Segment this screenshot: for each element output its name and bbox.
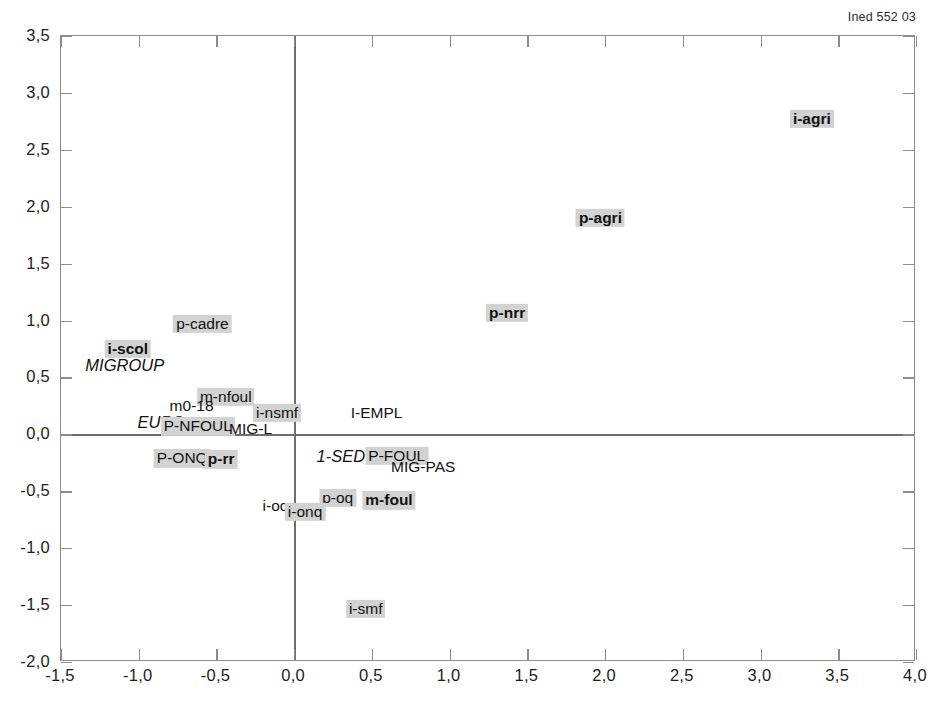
x-axis-tick-label: 2,0 [592, 666, 616, 685]
y-tick-right [903, 605, 914, 606]
x-tick-top [450, 36, 451, 47]
x-axis-tick-label: -1,0 [123, 666, 153, 685]
x-tick-top [61, 36, 62, 47]
x-tick-bottom [372, 649, 373, 660]
x-tick-bottom [605, 649, 606, 660]
y-tick-left [61, 548, 72, 549]
plot-frame: i-agrip-agrip-nrrp-cadrei-scolMIGROUPm-n… [60, 35, 915, 661]
y-axis-tick-label: 1,0 [26, 310, 50, 329]
y-tick-right [903, 150, 914, 151]
x-axis-tick-label: 0,5 [359, 666, 383, 685]
x-tick-top [216, 36, 217, 47]
y-axis-tick-label: 0,0 [26, 424, 50, 443]
y-axis-tick-label: -1,5 [20, 595, 50, 614]
y-tick-left [61, 662, 72, 663]
y-tick-right [903, 264, 914, 265]
y-tick-left [61, 491, 72, 492]
x-tick-top [605, 36, 606, 47]
data-point-label: p-agri [576, 209, 625, 227]
data-point-label: p-rr [205, 450, 238, 468]
x-tick-bottom [294, 649, 295, 660]
y-tick-left [61, 321, 72, 322]
y-tick-left [61, 36, 72, 37]
x-tick-bottom [450, 649, 451, 660]
x-axis-tick-label: -0,5 [201, 666, 231, 685]
y-tick-left [61, 207, 72, 208]
x-axis-tick-label: 3,0 [748, 666, 772, 685]
data-point-label: i-onq [285, 503, 325, 521]
y-tick-right [903, 207, 914, 208]
x-tick-top [139, 36, 140, 47]
y-axis-tick-label: 0,5 [26, 367, 50, 386]
data-point-label: i-smf [346, 599, 386, 617]
x-tick-top [838, 36, 839, 47]
x-tick-bottom [761, 649, 762, 660]
x-tick-top [372, 36, 373, 47]
x-axis-tick-label: 0,0 [281, 666, 305, 685]
y-tick-right [903, 434, 914, 435]
y-tick-right [903, 36, 914, 37]
x-tick-bottom [216, 649, 217, 660]
data-point-label: m0-18 [167, 397, 217, 415]
x-tick-bottom [61, 649, 62, 660]
data-point-label: 1-SED [314, 447, 369, 466]
x-tick-bottom [838, 649, 839, 660]
x-tick-bottom [683, 649, 684, 660]
y-tick-right [903, 321, 914, 322]
x-axis-tick-label: 1,5 [514, 666, 538, 685]
data-point-label: i-scol [105, 340, 151, 358]
x-tick-top [294, 36, 295, 47]
data-point-label: m-foul [362, 491, 415, 509]
x-tick-bottom [139, 649, 140, 660]
y-tick-left [61, 377, 72, 378]
scatter-plot-figure: Ined 552 03 i-agrip-agrip-nrrp-cadrei-sc… [0, 0, 934, 718]
y-tick-right [903, 662, 914, 663]
y-axis-tick-label: -1,0 [20, 538, 50, 557]
y-tick-left [61, 150, 72, 151]
x-tick-top [527, 36, 528, 47]
data-point-label: p-nrr [486, 303, 528, 321]
y-axis-tick-label: 3,5 [26, 26, 50, 45]
y-tick-right [903, 548, 914, 549]
y-axis-tick-label: 1,5 [26, 253, 50, 272]
data-point-label: I-EMPL [348, 404, 406, 422]
y-tick-right [903, 93, 914, 94]
y-axis-tick-label: 3,0 [26, 82, 50, 101]
x-tick-bottom [916, 649, 917, 660]
source-credit: Ined 552 03 [848, 10, 916, 24]
y-tick-right [903, 377, 914, 378]
data-point-label: MIGROUP [82, 356, 167, 375]
x-axis-tick-label: 2,5 [670, 666, 694, 685]
y-axis-tick-label: -2,0 [20, 652, 50, 671]
x-axis-tick-label: 1,0 [437, 666, 461, 685]
zero-axis-vertical [294, 36, 295, 660]
x-axis-tick-label: 4,0 [903, 666, 927, 685]
x-tick-top [761, 36, 762, 47]
x-tick-bottom [527, 649, 528, 660]
y-tick-left [61, 605, 72, 606]
data-point-label: MIG-PAS [388, 458, 458, 476]
x-tick-top [916, 36, 917, 47]
y-axis-tick-label: 2,0 [26, 196, 50, 215]
data-point-label: MIG-L [226, 420, 275, 438]
data-point-label: p-cadre [173, 315, 232, 333]
y-axis-tick-label: 2,5 [26, 139, 50, 158]
data-point-label: P-NFOUL [161, 417, 235, 435]
x-tick-top [683, 36, 684, 47]
data-point-label: i-agri [790, 110, 834, 128]
y-tick-left [61, 434, 72, 435]
x-axis-tick-label: 3,5 [825, 666, 849, 685]
y-tick-left [61, 93, 72, 94]
data-point-label: P-ONQ [154, 449, 211, 467]
y-tick-right [903, 491, 914, 492]
y-axis-tick-label: -0,5 [20, 481, 50, 500]
y-tick-left [61, 264, 72, 265]
